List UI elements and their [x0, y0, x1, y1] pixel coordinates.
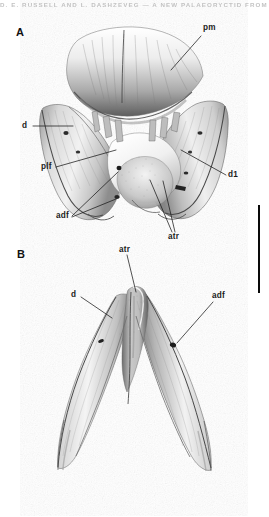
- leader-adf-b: [177, 302, 213, 343]
- label-d-panel-a: d: [22, 121, 27, 130]
- leader-atr-b: [127, 255, 136, 292]
- leader-adf-a2: [72, 199, 116, 217]
- label-plf: plf: [41, 162, 52, 171]
- label-adf-panel-a: adf: [56, 211, 69, 220]
- panel-a-artwork: [0, 0, 269, 517]
- label-atr-panel-b: atr: [119, 245, 130, 254]
- figure-page: D. E. RUSSELL AND L. DASHZEVEG — A NEW P…: [0, 0, 269, 517]
- foramen: [63, 131, 68, 135]
- label-atr-panel-a: atr: [168, 232, 179, 241]
- leader-plf: [56, 150, 116, 167]
- panel-letter-a: A: [16, 26, 24, 38]
- leader-pm: [171, 36, 201, 70]
- leader-adf-a1: [72, 172, 118, 216]
- leader-atr-a1: [150, 180, 172, 232]
- label-d1: d1: [228, 170, 238, 179]
- foramen: [98, 338, 105, 343]
- foramen-adf: [169, 342, 177, 348]
- leader-d-b: [81, 297, 112, 318]
- foramen-plf: [117, 166, 122, 170]
- panel-letter-b: B: [17, 248, 25, 260]
- running-head: D. E. RUSSELL AND L. DASHZEVEG — A NEW P…: [0, 0, 269, 9]
- foramen: [188, 151, 192, 154]
- label-pm: pm: [203, 23, 216, 32]
- foramen-adf: [114, 195, 119, 199]
- scale-bar: [258, 205, 260, 293]
- leader-lines: [0, 0, 269, 517]
- foramen: [184, 171, 189, 174]
- label-d-panel-b: d: [71, 290, 76, 299]
- foramen: [76, 150, 80, 153]
- leader-atr-a2: [163, 181, 175, 232]
- foramen-slot: [175, 185, 186, 191]
- label-adf-panel-b: adf: [212, 291, 225, 300]
- leader-d1: [181, 150, 226, 175]
- foramen: [198, 131, 203, 135]
